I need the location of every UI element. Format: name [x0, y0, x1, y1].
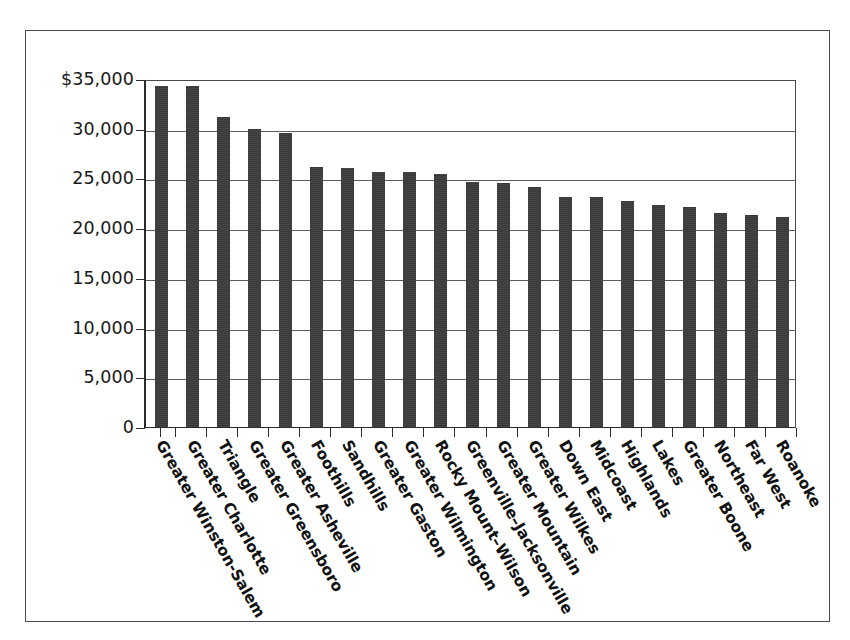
bar[interactable] [683, 207, 696, 427]
y-axis-tick [136, 130, 145, 131]
bar[interactable] [434, 174, 447, 427]
x-axis-tick [796, 428, 797, 437]
x-axis-tick [517, 428, 518, 437]
bar[interactable] [341, 168, 354, 427]
bar[interactable] [497, 183, 510, 427]
x-axis-tick [765, 428, 766, 437]
bar[interactable] [403, 172, 416, 427]
bar[interactable] [372, 172, 385, 427]
y-axis-tick [136, 279, 145, 280]
x-axis-tick [579, 428, 580, 437]
x-axis-tick [610, 428, 611, 437]
y-axis-tick [136, 428, 145, 429]
bar[interactable] [559, 197, 572, 427]
x-axis-tick [237, 428, 238, 437]
bar[interactable] [776, 217, 789, 427]
x-axis-tick [392, 428, 393, 437]
x-axis-tick [206, 428, 207, 437]
x-axis-tick [486, 428, 487, 437]
bar[interactable] [652, 205, 665, 427]
y-axis-tick [136, 179, 145, 180]
bar[interactable] [466, 182, 479, 427]
plot-area [144, 80, 796, 428]
figure-frame: $35,00030,00025,00020,00015,00010,0005,0… [25, 30, 830, 622]
x-axis-tick [299, 428, 300, 437]
x-axis-tick [454, 428, 455, 437]
x-axis-tick [175, 428, 176, 437]
bar[interactable] [217, 117, 230, 427]
bar[interactable] [248, 129, 261, 427]
y-axis-tick [136, 378, 145, 379]
x-axis-tick [548, 428, 549, 437]
y-axis-label: 20,000 [72, 220, 134, 238]
bar[interactable] [621, 201, 634, 427]
bar[interactable] [186, 86, 199, 427]
y-axis-label: 5,000 [83, 369, 134, 387]
y-axis-label-group: $35,00030,00025,00020,00015,00010,0005,0… [26, 31, 134, 623]
x-axis-tick [641, 428, 642, 437]
bar[interactable] [279, 133, 292, 427]
x-axis-tick [160, 428, 161, 437]
y-axis-label: 0 [123, 419, 134, 437]
x-axis-tick [423, 428, 424, 437]
bar[interactable] [310, 167, 323, 428]
y-axis-tick [136, 229, 145, 230]
bar[interactable] [745, 215, 758, 427]
y-axis-label: 30,000 [72, 121, 134, 139]
x-axis-tick [734, 428, 735, 437]
y-axis-label: $35,000 [61, 71, 134, 89]
y-axis-tick [136, 329, 145, 330]
y-axis-label: 15,000 [72, 270, 134, 288]
x-axis-tick [361, 428, 362, 437]
bar[interactable] [155, 86, 168, 427]
gridline [146, 131, 795, 132]
y-axis-label: 10,000 [72, 320, 134, 338]
bar[interactable] [590, 197, 603, 427]
x-axis-tick [330, 428, 331, 437]
x-axis-tick [703, 428, 704, 437]
bar[interactable] [528, 187, 541, 427]
bar[interactable] [714, 213, 727, 427]
x-axis-tick [672, 428, 673, 437]
chart-page: $35,00030,00025,00020,00015,00010,0005,0… [0, 0, 850, 640]
y-axis-label: 25,000 [72, 170, 134, 188]
x-axis-tick [268, 428, 269, 437]
y-axis-tick [136, 80, 145, 81]
